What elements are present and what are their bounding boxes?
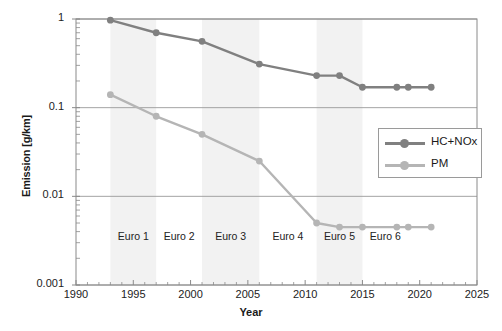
data-point — [313, 72, 320, 79]
euro-band-label: Euro 6 — [355, 230, 415, 242]
legend-marker-pm — [400, 161, 409, 170]
legend-marker-hc-nox — [400, 139, 409, 148]
data-point — [153, 113, 160, 120]
euro-band-label: Euro 3 — [201, 230, 261, 242]
x-tick-label: 2010 — [282, 288, 328, 300]
emission-standards-chart: Emission [g/km] Year 10.10.010.001 19901… — [0, 0, 502, 331]
x-tick-label: 2000 — [168, 288, 214, 300]
y-tick-label: 0.01 — [18, 188, 64, 200]
data-point — [199, 131, 206, 138]
legend-item-hc-nox: HC+NOx — [379, 132, 483, 154]
legend-label-hc-nox: HC+NOx — [431, 135, 477, 147]
data-point — [405, 84, 412, 91]
euro-band-shade — [317, 19, 363, 285]
data-point — [153, 29, 160, 36]
y-tick-label: 0.1 — [18, 100, 64, 112]
legend-label-pm: PM — [431, 157, 448, 169]
data-point — [428, 224, 435, 231]
y-tick-label: 1 — [18, 11, 64, 23]
data-point — [428, 84, 435, 91]
data-point — [393, 84, 400, 91]
x-tick-label: 1990 — [53, 288, 99, 300]
data-point — [359, 84, 366, 91]
x-axis-title: Year — [0, 306, 502, 318]
x-tick-label: 2015 — [339, 288, 385, 300]
x-tick-label: 2025 — [454, 288, 500, 300]
chart-legend: HC+NOx PM — [378, 128, 482, 178]
legend-item-pm: PM — [379, 154, 483, 176]
x-tick-label: 2005 — [225, 288, 271, 300]
data-point — [199, 38, 206, 45]
data-point — [313, 220, 320, 227]
data-point — [336, 72, 343, 79]
data-point — [256, 61, 263, 68]
x-tick-label: 1995 — [110, 288, 156, 300]
data-point — [256, 158, 263, 165]
x-tick-label: 2020 — [397, 288, 443, 300]
euro-band-shade — [110, 19, 156, 285]
data-point — [107, 91, 114, 98]
euro-band-shade — [202, 19, 259, 285]
data-point — [107, 17, 114, 24]
